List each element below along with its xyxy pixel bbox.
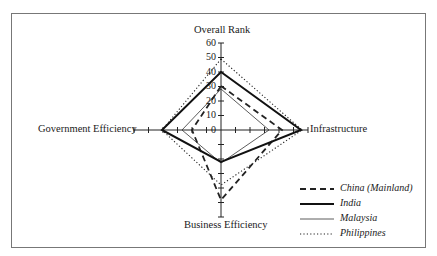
tick-label-0: 0	[200, 124, 216, 135]
series-philippines	[162, 59, 302, 185]
tick-label-50: 50	[200, 51, 216, 62]
dotted-line-icon	[298, 227, 338, 241]
thin-line-icon	[298, 212, 338, 226]
legend-label: Malaysia	[340, 212, 377, 223]
axis-label-business-efficiency: Business Efficiency	[184, 219, 268, 230]
legend-label: China (Mainland)	[340, 182, 413, 193]
legend-label: India	[340, 197, 361, 208]
tick-label-10: 10	[200, 109, 216, 120]
axis-label-overall-rank: Overall Rank	[194, 24, 250, 35]
series-india	[162, 72, 301, 162]
axis-label-government-efficiency: Government Efficiency	[38, 123, 137, 134]
thick-line-icon	[298, 197, 338, 211]
tick-label-30: 30	[200, 80, 216, 91]
dashed-line-icon	[298, 182, 338, 196]
axis-label-infrastructure: Infrastructure	[310, 123, 367, 134]
tick-label-40: 40	[200, 66, 216, 77]
series-malaysia	[182, 89, 269, 163]
legend-label: Philippines	[340, 227, 386, 238]
tick-label-60: 60	[200, 37, 216, 48]
tick-label-20: 20	[200, 95, 216, 106]
